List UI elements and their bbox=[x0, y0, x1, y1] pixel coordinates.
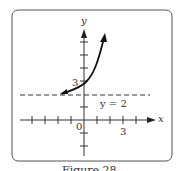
y-axis-label: y bbox=[81, 16, 87, 26]
figure-caption: Figure 28 bbox=[62, 164, 117, 171]
x-axis-label: x bbox=[158, 114, 164, 124]
x-tick-label-3: 3 bbox=[120, 127, 126, 137]
y-tick-label-3: 3 bbox=[72, 78, 78, 88]
curve-left-arrow-icon bbox=[60, 89, 68, 94]
figure-frame bbox=[12, 10, 172, 161]
graph-figure bbox=[0, 0, 176, 171]
asymptote-label: y = 2 bbox=[100, 99, 127, 109]
y-axis-arrow-icon bbox=[81, 29, 87, 38]
exponential-curve bbox=[62, 38, 104, 94]
x-axis-arrow-icon bbox=[147, 117, 156, 123]
curve-right-arrow-icon bbox=[100, 33, 107, 42]
origin-label: 0 bbox=[76, 122, 82, 132]
